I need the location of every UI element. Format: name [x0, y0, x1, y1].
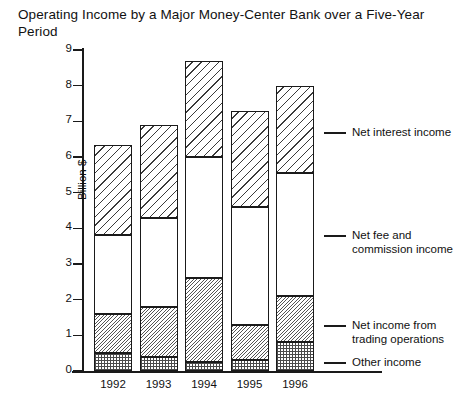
bar-1994[interactable]: [185, 61, 223, 371]
tick-label: 5: [50, 185, 72, 197]
legend-label: Other income: [352, 355, 471, 369]
tick-mark: [73, 335, 82, 337]
tick-label: 7: [50, 113, 72, 125]
bar-segment[interactable]: [140, 218, 178, 307]
bar-1996[interactable]: [276, 86, 314, 371]
page-title: Operating Income by a Major Money-Center…: [18, 6, 448, 40]
legend-label: Net fee and commission income: [352, 228, 471, 256]
tick-label: 0: [50, 363, 72, 375]
bar-1993[interactable]: [140, 125, 178, 371]
tick-label: 6: [50, 149, 72, 161]
bar-segment[interactable]: [94, 235, 132, 313]
bar-segment[interactable]: [276, 342, 314, 371]
legend-leader-line: [324, 132, 346, 134]
legend-label: Net interest income: [352, 125, 471, 139]
bar-segment[interactable]: [231, 360, 269, 371]
bar-segment[interactable]: [185, 278, 223, 362]
y-axis-label: Billion $: [76, 80, 88, 200]
bar-segment[interactable]: [231, 207, 269, 325]
tick-label: 1: [50, 327, 72, 339]
legend-leader-line: [324, 325, 346, 327]
chart-container: Operating Income by a Major Money-Center…: [0, 0, 471, 409]
tick-mark: [73, 299, 82, 301]
bar-segment[interactable]: [185, 157, 223, 278]
tick-mark: [73, 228, 82, 230]
tick-label: 3: [50, 256, 72, 268]
tick-mark: [73, 121, 82, 123]
tick-label: 9: [50, 42, 72, 54]
bar-segment[interactable]: [185, 362, 223, 371]
x-axis-label-1996: 1996: [265, 378, 325, 390]
x-axis-line: [72, 371, 382, 373]
bar-segment[interactable]: [185, 61, 223, 157]
tick-mark: [73, 192, 82, 194]
bar-segment[interactable]: [231, 325, 269, 361]
bar-segment[interactable]: [231, 111, 269, 207]
bar-segment[interactable]: [94, 314, 132, 353]
legend-label: Net income from trading operations: [352, 318, 471, 346]
bar-1995[interactable]: [231, 111, 269, 371]
legend-leader-line: [324, 362, 346, 364]
bar-segment[interactable]: [140, 357, 178, 371]
bar-segment[interactable]: [276, 173, 314, 296]
tick-label: 2: [50, 292, 72, 304]
bar-segment[interactable]: [276, 296, 314, 342]
tick-mark: [73, 370, 82, 372]
tick-mark: [73, 85, 82, 87]
tick-mark: [73, 263, 82, 265]
tick-mark: [73, 156, 82, 158]
tick-label: 4: [50, 220, 72, 232]
bar-segment[interactable]: [94, 353, 132, 371]
legend-leader-line: [324, 235, 346, 237]
tick-mark: [73, 49, 82, 51]
bar-segment[interactable]: [140, 125, 178, 218]
bar-segment[interactable]: [276, 86, 314, 173]
plot-area: Billion $ 0123456789: [82, 50, 320, 371]
bar-segment[interactable]: [140, 307, 178, 357]
tick-label: 8: [50, 78, 72, 90]
bar-1992[interactable]: [94, 145, 132, 371]
bar-segment[interactable]: [94, 145, 132, 236]
